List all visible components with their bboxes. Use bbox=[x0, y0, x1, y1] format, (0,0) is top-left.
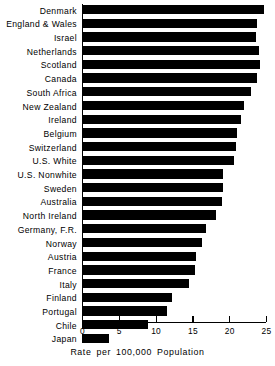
bar-category-label: Belgium bbox=[44, 129, 78, 138]
bar-category-label: South Africa bbox=[26, 88, 77, 97]
x-axis-tick-label: 25 bbox=[262, 326, 272, 336]
x-axis-tick-label: 5 bbox=[117, 326, 122, 336]
x-axis-tick bbox=[266, 316, 267, 322]
bar-row: Austria bbox=[0, 250, 275, 264]
bar-category-label: Switzerland bbox=[29, 143, 77, 152]
bar bbox=[82, 293, 172, 302]
bar-category-label: Japan bbox=[52, 335, 77, 344]
bar-category-label: Italy bbox=[59, 280, 77, 289]
bar bbox=[82, 156, 234, 165]
bar-row: Norway bbox=[0, 237, 275, 251]
x-axis-caption: Rate per 100,000 Population bbox=[0, 347, 275, 357]
bar bbox=[82, 183, 223, 192]
bar bbox=[82, 224, 206, 233]
x-axis-tick-label: 15 bbox=[188, 326, 198, 336]
bar-row: Denmark bbox=[0, 4, 275, 18]
bar-category-label: Denmark bbox=[40, 6, 77, 15]
bar-category-label: Canada bbox=[45, 75, 77, 84]
bar-category-label: Finland bbox=[46, 294, 77, 303]
bar-category-label: New Zealand bbox=[23, 102, 78, 111]
bar-row: South Africa bbox=[0, 86, 275, 100]
bar bbox=[82, 60, 260, 69]
x-axis-tick-label: 0 bbox=[80, 326, 85, 336]
bar bbox=[82, 115, 241, 124]
bar bbox=[82, 238, 202, 247]
x-axis-tick-label: 20 bbox=[225, 326, 235, 336]
bar-category-label: Netherlands bbox=[27, 47, 77, 56]
bar bbox=[82, 5, 264, 14]
bar bbox=[82, 19, 257, 28]
x-axis-tick bbox=[156, 316, 157, 322]
bar-category-label: Germany, F.R. bbox=[18, 225, 77, 234]
bar-category-label: Norway bbox=[46, 239, 77, 248]
bar-row: Australia bbox=[0, 196, 275, 210]
bar-category-label: Sweden bbox=[44, 184, 77, 193]
bar bbox=[82, 334, 109, 343]
bar-chart: DenmarkEngland & WalesIsraelNetherlandsS… bbox=[0, 0, 275, 366]
bar bbox=[82, 210, 216, 219]
x-axis-line bbox=[82, 322, 266, 323]
bar bbox=[82, 87, 251, 96]
bar bbox=[82, 73, 257, 82]
x-axis-tick bbox=[229, 316, 230, 322]
bar bbox=[82, 197, 222, 206]
bar-row: Switzerland bbox=[0, 141, 275, 155]
bar-row: Sweden bbox=[0, 182, 275, 196]
bar bbox=[82, 32, 256, 41]
bar-row: England & Wales bbox=[0, 18, 275, 32]
bar-row: Portugal bbox=[0, 305, 275, 319]
bar-row: Italy bbox=[0, 278, 275, 292]
bar bbox=[82, 142, 236, 151]
bar-row: Ireland bbox=[0, 113, 275, 127]
bar-category-label: Australia bbox=[40, 198, 77, 207]
bar bbox=[82, 101, 244, 110]
bar-category-label: Portugal bbox=[42, 308, 77, 317]
bar-row: Netherlands bbox=[0, 45, 275, 59]
bar bbox=[82, 169, 223, 178]
bar-row: U.S. White bbox=[0, 155, 275, 169]
bar-category-label: U.S. White bbox=[32, 157, 77, 166]
x-axis-tick-label: 10 bbox=[151, 326, 161, 336]
bar-category-label: Austria bbox=[48, 253, 77, 262]
bar bbox=[82, 252, 196, 261]
bar-rows: DenmarkEngland & WalesIsraelNetherlandsS… bbox=[0, 0, 275, 318]
bar-row: Belgium bbox=[0, 127, 275, 141]
bar bbox=[82, 279, 189, 288]
bar-category-label: Chile bbox=[56, 321, 77, 330]
bar-category-label: U.S. Nonwhite bbox=[18, 171, 77, 180]
bar-category-label: Ireland bbox=[48, 116, 77, 125]
bar bbox=[82, 306, 167, 315]
bar-category-label: England & Wales bbox=[6, 20, 77, 29]
x-axis-tick bbox=[82, 316, 83, 322]
bar-category-label: Israel bbox=[54, 34, 77, 43]
bar-category-label: Scotland bbox=[41, 61, 77, 70]
bar-row: U.S. Nonwhite bbox=[0, 168, 275, 182]
bar bbox=[82, 46, 259, 55]
bar-row: North Ireland bbox=[0, 209, 275, 223]
bar-row: Finland bbox=[0, 292, 275, 306]
bar-row: Scotland bbox=[0, 59, 275, 73]
bar bbox=[82, 128, 237, 137]
x-axis-tick bbox=[192, 316, 193, 322]
bar bbox=[82, 265, 195, 274]
bar-row: Germany, F.R. bbox=[0, 223, 275, 237]
x-axis-tick bbox=[119, 316, 120, 322]
bar-row: Israel bbox=[0, 31, 275, 45]
bar-row: New Zealand bbox=[0, 100, 275, 114]
bar-row: France bbox=[0, 264, 275, 278]
bar-category-label: France bbox=[48, 266, 77, 275]
bar-category-label: North Ireland bbox=[23, 212, 77, 221]
bar-row: Canada bbox=[0, 72, 275, 86]
